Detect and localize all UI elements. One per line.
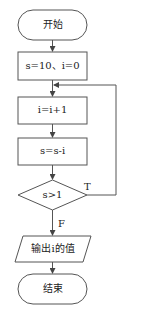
arrow-loop-true — [54, 85, 116, 195]
false-branch-label: F — [58, 219, 65, 229]
start-label: 开始 — [18, 20, 87, 30]
init-label: s=10、i=0 — [18, 61, 87, 71]
true-branch-label: T — [84, 182, 91, 192]
flowchart-canvas — [0, 0, 145, 318]
output-label: 输出i的值 — [15, 244, 91, 254]
end-label: 结束 — [18, 284, 87, 294]
increment-label: i=i+1 — [18, 105, 87, 115]
subtract-label: s=s-i — [18, 146, 87, 156]
condition-label: s>1 — [18, 190, 87, 200]
